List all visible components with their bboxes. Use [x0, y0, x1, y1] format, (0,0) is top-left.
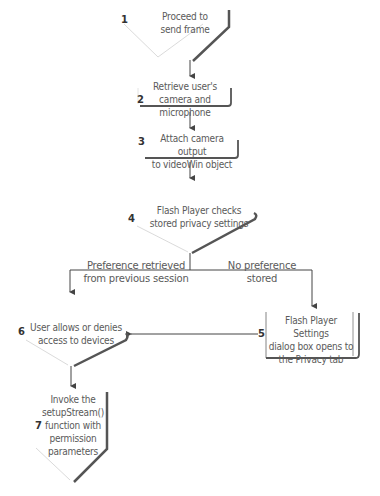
branch-right-label: No preferencestored	[222, 259, 302, 285]
step-7-label: Invoke thesetupStream()function withperm…	[42, 393, 104, 458]
step-1-label: Proceed tosend frame	[140, 10, 230, 36]
step-4-label: Flash Player checksstored privacy settin…	[140, 204, 258, 230]
step-4-number: 4	[128, 213, 135, 224]
step-6-number: 6	[18, 326, 25, 337]
step-2-label: Retrieve user'scamera and microphone	[140, 80, 230, 119]
step-3-label: Attach camera outputto videoWin object	[146, 132, 238, 171]
branch-left-label: Preference retrievedfrom previous sessio…	[82, 259, 190, 285]
step-5-number: 5	[258, 328, 265, 339]
step-3-number: 3	[138, 136, 145, 147]
step-6-label: User allows or deniesaccess to devices	[26, 321, 126, 347]
step-5-label: Flash Player Settingsdialog box opens to…	[267, 314, 355, 366]
step-1-number: 1	[121, 14, 128, 25]
step-7-number: 7	[35, 420, 42, 431]
